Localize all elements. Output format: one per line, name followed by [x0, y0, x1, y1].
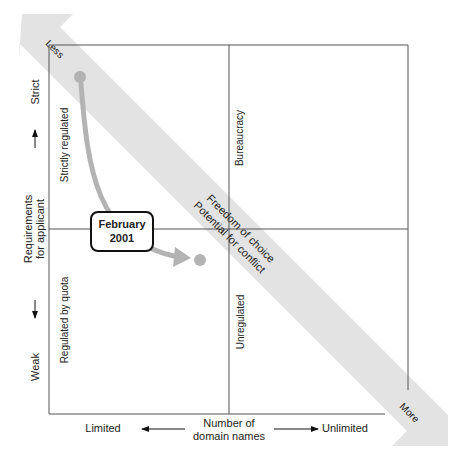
end-point: [194, 254, 206, 266]
y-axis-bottom-label: Weak: [29, 353, 41, 381]
x-axis-right-label: Unlimited: [322, 422, 368, 434]
quadrant-top-right-label: Bureaucracy: [234, 110, 245, 166]
x-axis-title-line2: domain names: [193, 430, 266, 442]
y-axis-top-label: Strict: [29, 79, 41, 104]
x-axis-title-line1: Number of: [203, 417, 255, 429]
y-axis: Strict Requirements for applicant Weak: [22, 79, 46, 380]
quadrant-top-left-label: Strictly regulated: [59, 108, 70, 182]
callout-line1: February: [98, 218, 146, 230]
y-axis-title-line2: for applicant: [34, 199, 46, 259]
start-point: [74, 71, 86, 83]
transition-arrowhead: [173, 247, 191, 267]
x-axis-left-label: Limited: [85, 422, 120, 434]
quadrant-diagram: Less More Freedom of choice Potential fo…: [0, 0, 451, 458]
callout-line2: 2001: [110, 232, 134, 244]
february-2001-callout: February 2001: [91, 212, 153, 251]
y-axis-title-line1: Requirements: [22, 194, 34, 263]
quadrant-bottom-right-label: Unregulated: [235, 295, 246, 349]
quadrant-bottom-left-label: Regulated by quota: [59, 276, 70, 363]
x-axis: Limited Number of domain names Unlimited: [85, 417, 368, 442]
